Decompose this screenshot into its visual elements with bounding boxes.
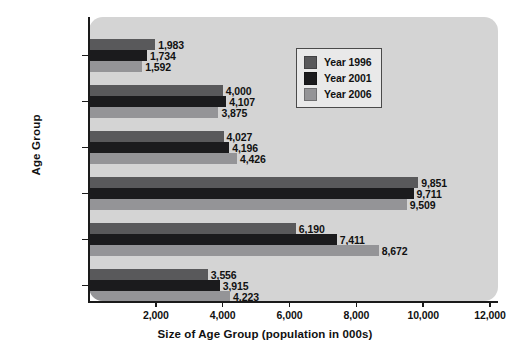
x-axis-tick-label: 10,000 (388, 309, 458, 321)
bar-row: 3,556 (89, 269, 498, 280)
bar[interactable] (89, 107, 218, 118)
bar[interactable] (89, 153, 237, 164)
chart-legend: Year 1996Year 2001Year 2006 (296, 48, 382, 108)
x-axis-title: Size of Age Group (population in 000s) (0, 328, 530, 340)
bar-value-label: 4,426 (237, 153, 266, 165)
bar-row: 4,000 (89, 85, 498, 96)
bar[interactable] (89, 85, 223, 96)
bar[interactable] (89, 131, 224, 142)
y-axis-tick-mark (82, 285, 89, 287)
legend-swatch-icon (304, 72, 317, 85)
bar-row: 9,509 (89, 199, 498, 210)
bar-value-label: 4,223 (230, 291, 259, 302)
x-axis-tick-mark (489, 301, 491, 307)
bar-value-label: 8,672 (379, 245, 408, 257)
bar-row: 4,107 (89, 96, 498, 107)
bar-row: 7,411 (89, 234, 498, 245)
bar-value-label: 9,509 (407, 199, 436, 211)
x-axis-tick-label: 8,000 (321, 309, 391, 321)
x-axis-tick-label: 12,000 (455, 309, 525, 321)
legend-swatch-icon (304, 88, 317, 101)
bar-value-label: 6,190 (296, 223, 325, 235)
bar-row: 4,027 (89, 131, 498, 142)
x-axis-tick-mark (222, 301, 224, 307)
bar[interactable] (89, 234, 337, 245)
y-axis-tick-mark (82, 239, 89, 241)
bar-row: 4,223 (89, 291, 498, 301)
bar-row: 6,190 (89, 223, 498, 234)
legend-item[interactable]: Year 2001 (304, 70, 372, 86)
x-axis-tick-label: 6,000 (255, 309, 325, 321)
legend-item[interactable]: Year 2006 (304, 86, 372, 102)
x-axis-tick-mark (422, 301, 424, 307)
x-axis-tick-mark (155, 301, 157, 307)
x-axis-tick-mark (289, 301, 291, 307)
bar-row: 9,711 (89, 188, 498, 199)
bar-row: 4,196 (89, 142, 498, 153)
bar-group: 4,0004,1073,875 (89, 85, 498, 118)
legend-swatch-icon (304, 56, 317, 69)
bar-chart: 1,9831,7341,5924,0004,1073,8754,0274,196… (0, 0, 530, 352)
y-axis-tick-mark (82, 101, 89, 103)
bar[interactable] (89, 39, 155, 50)
bar-value-label: 7,411 (337, 234, 365, 246)
bar-group: 1,9831,7341,592 (89, 39, 498, 72)
plot-bars-container: 1,9831,7341,5924,0004,1073,8754,0274,196… (89, 17, 498, 301)
bar-row: 9,851 (89, 177, 498, 188)
bar-value-label: 1,592 (142, 61, 171, 73)
bar[interactable] (89, 291, 230, 301)
bar-row: 4,426 (89, 153, 498, 164)
bar-value-label: 3,875 (218, 107, 247, 119)
legend-label: Year 2006 (324, 88, 372, 100)
bar[interactable] (89, 223, 296, 234)
bar-row: 8,672 (89, 245, 498, 256)
bar-row: 1,983 (89, 39, 498, 50)
y-axis-tick-mark (82, 193, 89, 195)
bar-group: 6,1907,4118,672 (89, 223, 498, 256)
bar[interactable] (89, 177, 418, 188)
bar[interactable] (89, 280, 220, 291)
bar-group: 3,5563,9154,223 (89, 269, 498, 301)
y-axis-tick-mark (82, 147, 89, 149)
bar-row: 3,915 (89, 280, 498, 291)
bar[interactable] (89, 245, 379, 256)
bar[interactable] (89, 269, 208, 280)
x-axis-tick-mark (356, 301, 358, 307)
bar-row: 1,592 (89, 61, 498, 72)
plot-area: 1,9831,7341,5924,0004,1073,8754,0274,196… (89, 17, 498, 301)
bar[interactable] (89, 50, 147, 61)
x-axis-line (88, 301, 498, 303)
legend-label: Year 1996 (324, 56, 372, 68)
y-axis-tick-mark (82, 55, 89, 57)
y-axis-line (88, 17, 90, 301)
legend-item[interactable]: Year 1996 (304, 54, 372, 70)
legend-label: Year 2001 (324, 72, 372, 84)
bar-group: 9,8519,7119,509 (89, 177, 498, 210)
bar[interactable] (89, 188, 414, 199)
bar-group: 4,0274,1964,426 (89, 131, 498, 164)
bar[interactable] (89, 142, 229, 153)
x-axis-tick-label: 2,000 (121, 309, 191, 321)
bar[interactable] (89, 199, 407, 210)
x-axis-tick-label: 4,000 (188, 309, 258, 321)
bar[interactable] (89, 61, 142, 72)
bar[interactable] (89, 96, 226, 107)
bar-row: 3,875 (89, 107, 498, 118)
bar-row: 1,734 (89, 50, 498, 61)
y-axis-title: Age Group (30, 85, 42, 205)
